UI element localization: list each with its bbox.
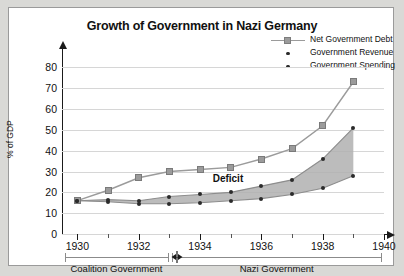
x-tick xyxy=(353,234,354,238)
data-point xyxy=(197,166,204,173)
x-tick xyxy=(108,234,109,238)
data-point xyxy=(321,186,325,190)
y-tick-label: 50 xyxy=(29,124,57,136)
y-tick-label: 30 xyxy=(29,166,57,178)
period-rule xyxy=(65,257,168,258)
y-tick-label: 10 xyxy=(29,207,57,219)
period-rule xyxy=(172,257,381,258)
period-cap xyxy=(381,253,382,262)
data-point xyxy=(350,78,357,85)
legend-label: Net Government Debt xyxy=(310,34,393,44)
x-tick xyxy=(231,234,232,238)
y-axis-arrow-icon xyxy=(59,41,67,49)
legend-label: Government Revenue xyxy=(310,47,393,57)
y-tick-label: 40 xyxy=(29,145,57,157)
chart-card: Growth of Government in Nazi Germany Net… xyxy=(8,7,394,266)
y-tick-label: 80 xyxy=(29,61,57,73)
x-tick xyxy=(292,234,293,238)
x-tick-label: 1930 xyxy=(57,240,97,252)
data-point xyxy=(106,200,110,204)
period-divider-icon xyxy=(169,251,185,263)
gridline xyxy=(62,234,384,235)
data-point xyxy=(321,157,325,161)
x-tick-label: 1932 xyxy=(119,240,159,252)
x-axis-arrow-icon xyxy=(387,231,395,239)
data-point xyxy=(105,187,112,194)
data-point xyxy=(290,178,294,182)
series-layer xyxy=(62,57,384,234)
legend-key-line-square-icon xyxy=(271,34,305,46)
y-axis-label: % of GDP xyxy=(5,120,15,158)
period-label: Nazi Government xyxy=(172,263,381,274)
y-tick-label: 70 xyxy=(29,82,57,94)
plot-area: Deficit xyxy=(62,57,384,234)
x-tick xyxy=(169,234,170,238)
period-label: Coalition Government xyxy=(65,263,168,274)
y-tick-label: 60 xyxy=(29,103,57,115)
x-tick-label: 1936 xyxy=(241,240,281,252)
data-point xyxy=(289,145,296,152)
data-point xyxy=(167,195,171,199)
data-point xyxy=(198,201,202,205)
legend-item-net-government-debt: Net Government Debt xyxy=(271,34,393,46)
x-tick-label: 1938 xyxy=(303,240,343,252)
x-tick-label: 1940 xyxy=(364,240,404,252)
data-point xyxy=(319,122,326,129)
x-tick-label: 1934 xyxy=(180,240,220,252)
data-point xyxy=(135,174,142,181)
data-point xyxy=(229,199,233,203)
chart-title: Growth of Government in Nazi Germany xyxy=(9,19,395,33)
period-cap xyxy=(65,253,66,262)
deficit-annotation: Deficit xyxy=(213,173,244,184)
data-point xyxy=(137,202,141,206)
data-point xyxy=(258,156,265,163)
data-point xyxy=(259,197,263,201)
data-point xyxy=(227,164,234,171)
y-tick-label: 20 xyxy=(29,186,57,198)
y-tick-label: 0 xyxy=(29,228,57,240)
data-point xyxy=(166,168,173,175)
